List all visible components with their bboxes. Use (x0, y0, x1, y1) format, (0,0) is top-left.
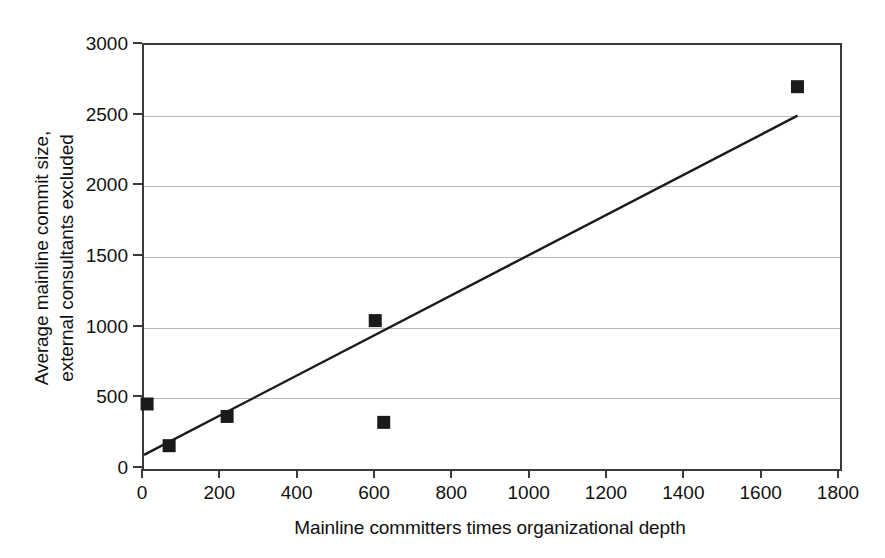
data-point-marker (791, 80, 804, 93)
y-tick-mark-500 (133, 395, 142, 397)
y-tick-label-0: 0 (58, 458, 128, 477)
data-point-marker (141, 397, 154, 410)
x-tick-label-600: 600 (334, 483, 414, 502)
y-tick-mark-1000 (133, 325, 142, 327)
y-tick-label-500: 500 (58, 387, 128, 406)
plot-area (142, 43, 842, 471)
y-tick-mark-0 (133, 466, 142, 468)
data-points (141, 80, 804, 452)
x-tick-mark-1600 (760, 469, 762, 478)
y-tick-mark-2500 (133, 113, 142, 115)
data-layer (144, 45, 840, 469)
x-axis-title: Mainline committers times organizational… (142, 517, 838, 539)
trendline (144, 116, 797, 455)
x-tick-mark-1800 (837, 469, 839, 478)
trendline-path (144, 116, 797, 455)
y-tick-mark-1500 (133, 254, 142, 256)
y-tick-label-2000: 2000 (58, 175, 128, 194)
x-tick-mark-1000 (528, 469, 530, 478)
y-axis-title-line-1: Average mainline commit size, (29, 131, 54, 385)
x-tick-label-1000: 1000 (489, 483, 569, 502)
data-point-marker (369, 314, 382, 327)
x-tick-label-800: 800 (411, 483, 491, 502)
scatter-chart: Average mainline commit size, external c… (0, 0, 885, 558)
y-tick-label-3000: 3000 (58, 34, 128, 53)
x-tick-label-0: 0 (102, 483, 182, 502)
x-tick-label-1400: 1400 (643, 483, 723, 502)
x-tick-mark-1200 (605, 469, 607, 478)
data-point-marker (221, 410, 234, 423)
x-tick-label-400: 400 (257, 483, 337, 502)
x-tick-mark-200 (218, 469, 220, 478)
x-tick-label-1800: 1800 (798, 483, 878, 502)
y-tick-label-2500: 2500 (58, 105, 128, 124)
x-tick-mark-1400 (682, 469, 684, 478)
y-tick-label-1500: 1500 (58, 246, 128, 265)
data-point-marker (163, 439, 176, 452)
y-tick-label-1000: 1000 (58, 317, 128, 336)
y-tick-mark-3000 (133, 42, 142, 44)
x-tick-label-1600: 1600 (721, 483, 801, 502)
x-tick-mark-800 (450, 469, 452, 478)
x-tick-label-200: 200 (179, 483, 259, 502)
x-tick-mark-400 (296, 469, 298, 478)
x-tick-mark-0 (141, 469, 143, 478)
x-tick-label-1200: 1200 (566, 483, 646, 502)
y-tick-mark-2000 (133, 183, 142, 185)
x-tick-mark-600 (373, 469, 375, 478)
data-point-marker (377, 416, 390, 429)
